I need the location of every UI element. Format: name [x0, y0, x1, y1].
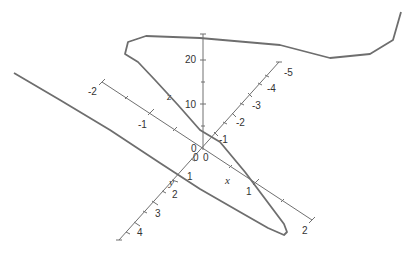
y-tick-2: 2: [172, 189, 178, 200]
z-axis: 20 10 z: [166, 34, 206, 150]
x-axis: -2 -1 1 2 x: [88, 79, 315, 236]
x-axis-label: x: [224, 174, 230, 186]
y-tick-neg3: -3: [252, 100, 261, 111]
x-tick-neg1: -1: [138, 119, 147, 130]
y-tick-neg4: -4: [267, 83, 276, 94]
x-tick-2: 2: [302, 225, 308, 236]
x-tick-neg2: -2: [88, 86, 97, 97]
z-tick-20: 20: [185, 54, 197, 65]
y-tick-3: 3: [155, 208, 161, 219]
y-axis-label: y: [168, 176, 174, 188]
y-tick-neg5: -5: [284, 67, 293, 78]
origin-x-label: 0: [203, 152, 209, 163]
3d-plot: 20 10 z -2 -1 1 2 x: [0, 0, 412, 255]
z-tick-10: 10: [185, 99, 197, 110]
space-curve: [14, 12, 401, 235]
y-tick-4: 4: [137, 227, 143, 238]
origin-y-label: 0: [193, 152, 199, 163]
x-tick-1: 1: [246, 186, 252, 197]
y-tick-neg2: -2: [236, 117, 245, 128]
